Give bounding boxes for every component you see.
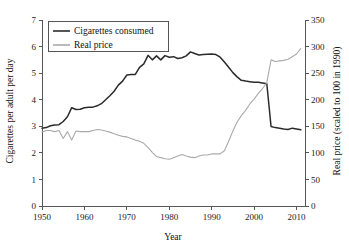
x-tick-label: 1950 [33, 212, 52, 222]
series-line-real-price [42, 49, 301, 160]
x-tick-label: 1990 [203, 212, 222, 222]
chart-figure: 0123456705010015020025030035019501960197… [0, 0, 349, 249]
y-tick-label-left: 5 [32, 68, 37, 78]
data-series-group [42, 49, 301, 160]
x-axis-title: Year [164, 232, 182, 242]
y-tick-label-right: 50 [311, 175, 321, 185]
y-tick-label-right: 350 [311, 15, 325, 25]
legend-label-real-price: Real price [74, 40, 113, 50]
y-tick-label-right: 200 [311, 95, 325, 105]
legend-label-cigarettes-consumed: Cigarettes consumed [74, 26, 154, 36]
x-tick-label: 2010 [288, 212, 307, 222]
y-tick-label-right: 300 [311, 42, 325, 52]
y-axis-left-title: Cigarettes per adult per day [5, 58, 15, 163]
x-tick-label: 1970 [118, 212, 137, 222]
y-tick-label-right: 0 [311, 201, 316, 211]
y-tick-label-right: 250 [311, 68, 325, 78]
x-tick-label: 2000 [245, 212, 264, 222]
y-tick-label-left: 0 [32, 201, 37, 211]
y-axis-right-title: Real price (scaled to 100 in 1990) [332, 47, 343, 176]
x-tick-label: 1960 [75, 212, 94, 222]
y-tick-label-left: 2 [32, 148, 37, 158]
y-tick-label-left: 4 [32, 95, 37, 105]
y-tick-label-right: 100 [311, 148, 325, 158]
dual-axis-line-chart: 0123456705010015020025030035019501960197… [0, 0, 349, 249]
x-tick-label: 1980 [160, 212, 179, 222]
y-tick-label-left: 7 [32, 15, 37, 25]
y-tick-label-left: 3 [32, 121, 37, 131]
y-tick-label-left: 1 [32, 175, 37, 185]
chart-legend: Cigarettes consumedReal price [48, 21, 168, 51]
series-line-cigarettes-consumed [42, 52, 301, 130]
y-tick-label-left: 6 [32, 42, 37, 52]
y-tick-label-right: 150 [311, 121, 325, 131]
